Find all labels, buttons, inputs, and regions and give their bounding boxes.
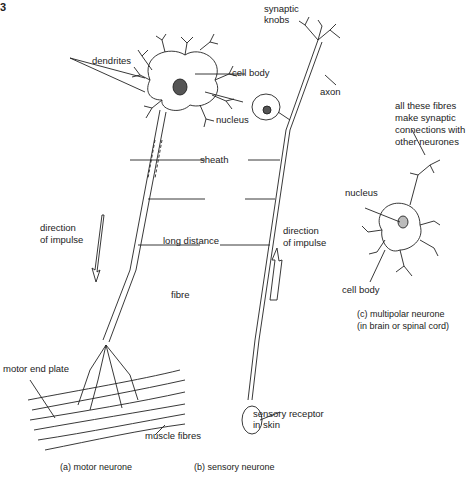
label-all-fibres-1: all these fibres [395, 100, 456, 111]
label-direction-a-2: of impulse [40, 234, 83, 245]
label-fibre: fibre [171, 289, 189, 300]
label-muscle-fibres: muscle fibres [145, 430, 201, 441]
label-synaptic-knobs-1: synaptic [264, 3, 299, 14]
caption-c-2: (in brain or spinal cord) [357, 321, 449, 332]
label-all-fibres-3: connections with [395, 124, 465, 135]
label-direction-b-1: direction [283, 225, 319, 236]
label-sheath: sheath [200, 154, 229, 165]
caption-b: (b) sensory neurone [194, 462, 275, 473]
label-all-fibres-2: make synaptic [395, 112, 456, 123]
label-axon: axon [320, 86, 341, 97]
label-motor-end-plate: motor end plate [3, 363, 69, 374]
label-dendrites: dendrites [92, 55, 131, 66]
motor-nucleus [173, 79, 187, 95]
figure-number: 3 [0, 2, 6, 13]
label-nucleus-a: nucleus [216, 114, 249, 125]
label-direction-b-2: of impulse [283, 237, 326, 248]
label-cell-body-a: cell body [232, 67, 270, 78]
label-cell-body-c: cell body [342, 284, 380, 295]
label-nucleus-c: nucleus [345, 187, 378, 198]
label-direction-a-1: direction [40, 222, 76, 233]
sensory-nucleus [263, 106, 271, 114]
label-long-distance: long distance [163, 235, 219, 246]
caption-c-1: (c) multipolar neurone [357, 309, 445, 320]
label-all-fibres-4: other neurones [395, 136, 459, 147]
label-synaptic-knobs-2: knobs [264, 14, 289, 25]
label-sensory-receptor-2: in skin [253, 419, 280, 430]
label-sensory-receptor-1: sensory receptor [253, 408, 324, 419]
caption-a: (a) motor neurone [60, 462, 132, 473]
